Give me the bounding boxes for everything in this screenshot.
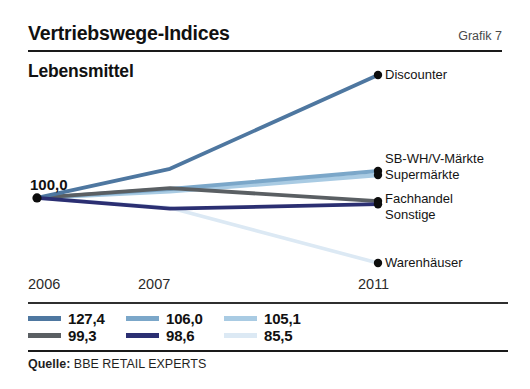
- legend-value-sb-wh-v-maerkte: 106,0: [166, 310, 203, 327]
- legend-item-98-6: 98,6: [126, 327, 224, 344]
- series-line-sonstige: [37, 198, 378, 209]
- legend-item-127-4: 127,4: [28, 310, 126, 327]
- series-endpoint-sb-wh-v-m-rkte: [374, 167, 382, 175]
- series-line-discounter: [37, 75, 378, 198]
- series-label-discounter: Discounter: [385, 68, 447, 82]
- header-divider: [28, 50, 502, 52]
- series-endpoint-fachhandel: [374, 197, 382, 205]
- legend-value-fachhandel: 99,3: [68, 327, 96, 344]
- legend-swatch-fachhandel: [28, 333, 61, 338]
- chart-page: Vertriebswege-Indices Grafik 7 Lebensmit…: [0, 0, 530, 389]
- series-line-superm-rkte: [37, 175, 378, 198]
- legend-item-105-1: 105,1: [224, 310, 322, 327]
- x-axis: 2006 2007 2011: [28, 276, 502, 296]
- origin-point: [32, 193, 41, 202]
- series-line-warenh-user: [37, 198, 378, 263]
- series-label-warenhaeuser: Warenhäuser: [385, 256, 463, 270]
- legend-item-85-5: 85,5: [224, 327, 322, 344]
- x-tick-2011: 2011: [358, 276, 389, 292]
- axis-divider: [28, 302, 508, 304]
- series-label-sonstige: Sonstige: [385, 208, 436, 222]
- legend-value-supermaerkte: 105,1: [264, 310, 301, 327]
- x-tick-2007: 2007: [138, 276, 170, 292]
- figure-number: Grafik 7: [458, 29, 502, 45]
- source-label: Quelle:: [28, 357, 70, 371]
- series-endpoint-sonstige: [374, 200, 382, 208]
- legend-swatch-discounter: [28, 316, 61, 321]
- legend-value-discounter: 127,4: [68, 310, 105, 327]
- footer-divider: [28, 350, 508, 352]
- chart-legend: 127,4 106,0 105,1 99,3 98,6 85,5: [28, 310, 328, 344]
- series-label-sb-wh-v-maerkte: SB-WH/V-Märkte: [385, 152, 484, 166]
- legend-item-106-0: 106,0: [126, 310, 224, 327]
- legend-value-sonstige: 98,6: [166, 327, 194, 344]
- page-title: Vertriebswege-Indices: [28, 22, 230, 45]
- legend-row: 127,4 106,0 105,1: [28, 310, 328, 327]
- source-value: BBE RETAIL EXPERTS: [74, 357, 206, 371]
- series-label-fachhandel: Fachhandel: [385, 192, 453, 206]
- series-endpoint-superm-rkte: [374, 171, 382, 179]
- legend-value-warenhaeuser: 85,5: [264, 327, 292, 344]
- series-line-fachhandel: [37, 188, 378, 201]
- chart-header: Vertriebswege-Indices Grafik 7: [28, 0, 502, 45]
- series-label-supermaerkte: Supermärkte: [385, 168, 459, 182]
- legend-row: 99,3 98,6 85,5: [28, 327, 328, 344]
- series-endpoint-warenh-user: [374, 259, 382, 267]
- legend-swatch-sb-wh-v-maerkte: [126, 316, 159, 321]
- x-tick-2006: 2006: [28, 276, 60, 292]
- base-value-label: 100,0: [30, 176, 68, 193]
- legend-item-99-3: 99,3: [28, 327, 126, 344]
- series-line-sb-wh-v-m-rkte: [37, 171, 378, 198]
- legend-swatch-sonstige: [126, 333, 159, 338]
- source-note: Quelle: BBE RETAIL EXPERTS: [28, 357, 206, 371]
- legend-swatch-warenhaeuser: [224, 333, 257, 338]
- legend-swatch-supermaerkte: [224, 316, 257, 321]
